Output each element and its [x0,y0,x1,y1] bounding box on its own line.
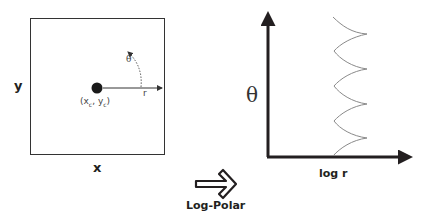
diagram-graphics [0,0,424,219]
center-point-icon [92,83,103,94]
theta-axis-label: θ [246,83,258,107]
radius-label: r [143,88,147,98]
logr-axis-label: log r [319,167,347,180]
angle-label: θ [126,54,131,64]
transform-label: Log-Polar [186,199,245,212]
double-arrow-right-icon [196,170,236,198]
log-polar-curve [333,17,367,156]
center-coordinate-label: (xc, yc) [80,96,110,108]
